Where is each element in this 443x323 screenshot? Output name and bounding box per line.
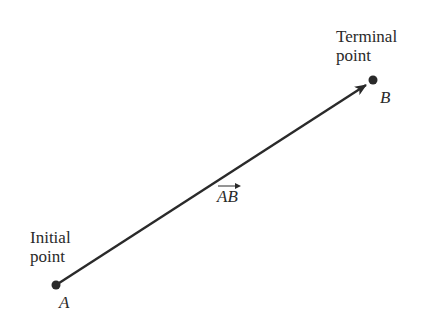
initial-point-dot: [52, 281, 61, 290]
initial-label-line1: Initial: [30, 228, 71, 247]
vector-line: [56, 85, 366, 285]
terminal-point-label: Terminal point: [336, 27, 397, 65]
terminal-point-dot: [369, 76, 378, 85]
initial-point-label: Initial point: [30, 228, 71, 266]
terminal-label-line1: Terminal: [336, 27, 397, 46]
terminal-label-line2: point: [336, 46, 397, 65]
vector-diagram: Terminal point B Initial point A AB: [0, 0, 443, 323]
point-a-label: A: [59, 293, 69, 312]
initial-label-line2: point: [30, 247, 71, 266]
vector-ab-label: AB: [217, 188, 238, 205]
point-b-label: B: [380, 88, 390, 107]
overline-arrow-icon: [217, 182, 243, 190]
